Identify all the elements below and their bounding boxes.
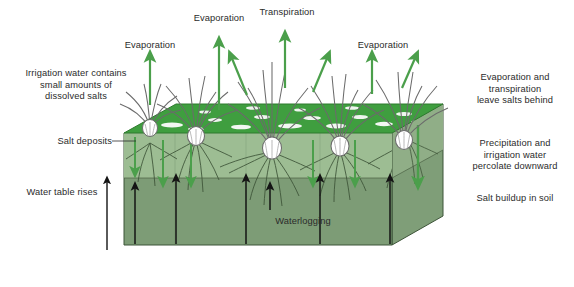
diagram-canvas: Evaporation Evaporation Transpiration Ev… — [0, 0, 574, 287]
label-water-table-rises: Water table rises — [20, 187, 104, 199]
label-salt-buildup: Salt buildup in soil — [458, 193, 572, 205]
block-front-face — [124, 133, 392, 245]
label-evaporation-right: Evaporation — [345, 40, 421, 52]
label-salt-deposits: Salt deposits — [46, 136, 112, 148]
label-evaporation-transpiration-note: Evaporation and transpiration leave salt… — [458, 72, 572, 107]
label-evaporation-mid: Evaporation — [181, 13, 257, 25]
label-transpiration: Transpiration — [249, 7, 325, 19]
label-irrigation-water-note: Irrigation water contains small amounts … — [2, 68, 150, 103]
label-percolation-note: Precipitation and irrigation water perco… — [456, 138, 574, 173]
label-waterlogging: Waterlogging — [258, 216, 348, 228]
label-evaporation-left: Evaporation — [112, 40, 188, 52]
